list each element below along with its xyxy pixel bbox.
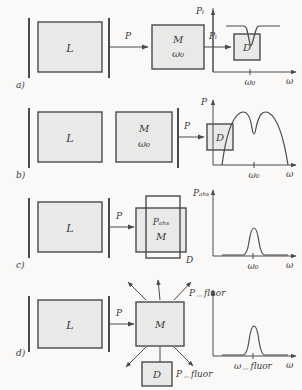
row-label-b: b) xyxy=(16,170,26,180)
chart-c-absorption: Pₐₕₛ ω ω₀ xyxy=(192,188,296,271)
chart-a-xlabel: ω xyxy=(286,76,294,86)
detector-label-d: D xyxy=(152,369,161,380)
row-a-transmission: L P M ω₀ Pₜ D a) xyxy=(16,18,260,90)
detector-label-b: D xyxy=(215,132,224,143)
laser-label-c: L xyxy=(65,222,73,235)
sample-label-c: M xyxy=(155,231,167,242)
chart-b-xlabel: ω xyxy=(286,169,294,179)
fluor-arrow-up-left xyxy=(128,282,146,300)
fluorescence-label-d: P﹍fluor xyxy=(175,369,213,379)
sample-label-d: M xyxy=(154,319,166,330)
chart-b-ylabel: P xyxy=(200,97,208,107)
chart-c-tick-label: ω₀ xyxy=(248,261,259,271)
beam-in-label-a: P xyxy=(124,31,132,41)
row-c-absorption: L P Pₐₕₛ M D c) xyxy=(16,196,193,270)
chart-c-xlabel: ω xyxy=(286,260,294,270)
chart-a-ylabel: Pₜ xyxy=(195,6,205,16)
sample-cell-c xyxy=(136,208,186,252)
absorbed-power-label-c: Pₐₕₛ xyxy=(152,217,169,227)
detector-label-c: D xyxy=(185,255,193,265)
chart-d-xlabel: ω xyxy=(286,360,294,370)
laser-label-a: L xyxy=(65,42,73,55)
sample-cell-b xyxy=(116,112,172,162)
beam-in-label-c: P xyxy=(115,211,123,221)
row-b-intracavity: L M ω₀ P D b) xyxy=(16,108,233,180)
chart-d-tick-label: ω﹍fluor xyxy=(234,361,273,371)
fluor-arrow-up xyxy=(158,280,160,300)
row-label-c: c) xyxy=(16,260,25,270)
chart-b-tick-label: ω₀ xyxy=(249,170,260,180)
sample-cell-a xyxy=(152,25,204,69)
row-d-fluorescence: L P M P﹍fluor D d) xyxy=(16,280,213,386)
row-label-a: a) xyxy=(16,80,25,90)
chart-c-ylabel: Pₐₕₛ xyxy=(192,188,209,198)
laser-label-d: L xyxy=(65,319,73,332)
sample-label-b: M xyxy=(138,123,150,134)
chart-d-fluorescence: P﹍fluor ω ω﹍fluor xyxy=(188,288,296,371)
chart-d-ylabel: P﹍fluor xyxy=(188,288,226,298)
chart-c-curve xyxy=(222,228,288,255)
laser-label-b: L xyxy=(65,132,73,145)
beam-out-label-b: P xyxy=(183,121,191,131)
fluor-arrow-down-right xyxy=(174,347,193,366)
chart-d-curve xyxy=(222,326,288,355)
sample-sublabel-a: ω₀ xyxy=(172,48,184,59)
sample-label-a: M xyxy=(172,34,184,45)
figure-spectroscopy-schemes: L P M ω₀ Pₜ D a) Pₜ ω ω₀ L M ω₀ P D xyxy=(0,0,302,390)
sample-sublabel-b: ω₀ xyxy=(138,138,150,149)
chart-a-tick-label: ω₀ xyxy=(245,77,256,87)
beam-in-label-d: P xyxy=(115,308,123,318)
row-label-d: d) xyxy=(16,348,26,358)
